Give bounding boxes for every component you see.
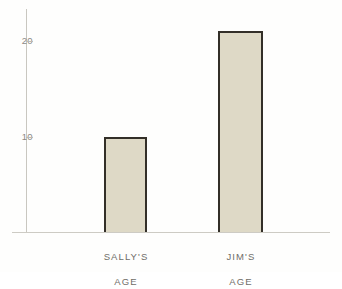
- category-label-line-2: AGE: [195, 276, 287, 289]
- category-label-sallys-age: SALLY'S AGE: [80, 238, 172, 289]
- bar-jims-age[interactable]: [218, 31, 263, 232]
- x-axis-line: [12, 232, 330, 233]
- category-label-line-1: JIM'S: [195, 251, 287, 264]
- category-label-jims-age: JIM'S AGE: [195, 238, 287, 289]
- bar-sallys-age[interactable]: [104, 137, 147, 233]
- y-tick-mark-10: [26, 137, 33, 138]
- category-label-line-1: SALLY'S: [80, 251, 172, 264]
- bar-sheen: [220, 33, 261, 232]
- y-tick-mark-20: [26, 41, 33, 42]
- category-label-line-2: AGE: [80, 276, 172, 289]
- bar-sheen: [106, 139, 145, 233]
